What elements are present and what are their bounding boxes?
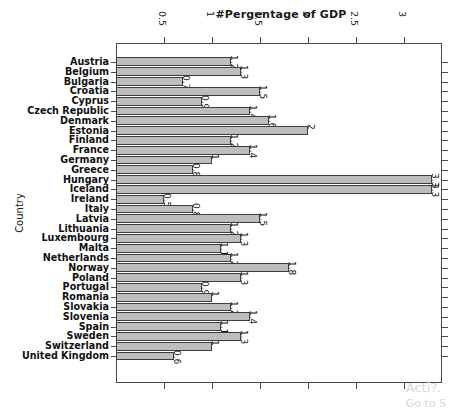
y-axis-tick-right bbox=[442, 189, 448, 190]
y-axis-tick bbox=[111, 111, 116, 112]
y-axis-tick-right bbox=[442, 336, 448, 337]
x-axis-tick-bottom bbox=[308, 383, 309, 389]
y-axis-tick-right bbox=[442, 180, 448, 181]
y-axis-tick-right bbox=[442, 297, 448, 298]
y-axis-tick-right bbox=[442, 121, 448, 122]
bar[interactable] bbox=[116, 224, 231, 233]
bar[interactable] bbox=[116, 146, 250, 155]
y-axis-tick-right bbox=[442, 238, 448, 239]
y-axis-tick bbox=[111, 287, 116, 288]
y-axis-tick-right bbox=[442, 140, 448, 141]
bar-value-label: 1.4 bbox=[248, 310, 258, 324]
bar[interactable] bbox=[116, 77, 183, 86]
bar-value-label: 1 bbox=[210, 154, 220, 160]
bar[interactable] bbox=[116, 273, 241, 282]
bar[interactable] bbox=[116, 205, 193, 214]
y-axis-tick bbox=[111, 258, 116, 259]
x-axis-tick-label: 1.5 bbox=[253, 11, 264, 26]
y-axis-tick bbox=[111, 170, 116, 171]
y-axis-tick-right bbox=[442, 209, 448, 210]
y-axis-tick bbox=[111, 72, 116, 73]
bar[interactable] bbox=[116, 293, 212, 302]
bar[interactable] bbox=[116, 244, 221, 253]
bar[interactable] bbox=[116, 283, 202, 292]
y-axis-tick bbox=[111, 150, 116, 151]
x-axis-tick bbox=[308, 37, 309, 43]
y-axis-tick bbox=[111, 121, 116, 122]
y-axis-tick bbox=[111, 131, 116, 132]
bar-value-label: 2 bbox=[306, 124, 316, 130]
activation-watermark: Acti?. Go to S bbox=[406, 380, 446, 412]
bar-value-label: 1.5 bbox=[258, 212, 268, 226]
y-axis-tick bbox=[111, 346, 116, 347]
y-axis-tick bbox=[111, 229, 116, 230]
y-axis-tick bbox=[111, 327, 116, 328]
bar[interactable] bbox=[116, 67, 241, 76]
y-axis-title: Country bbox=[14, 193, 25, 233]
bar[interactable] bbox=[116, 97, 202, 106]
bar[interactable] bbox=[116, 332, 241, 341]
bar-value-label: 1.5 bbox=[258, 85, 268, 99]
y-axis-tick bbox=[111, 62, 116, 63]
x-axis-tick-label: 0.5 bbox=[157, 11, 168, 26]
bar-value-label: 1 bbox=[210, 291, 220, 297]
y-axis-tick-right bbox=[442, 356, 448, 357]
y-axis-tick-right bbox=[442, 229, 448, 230]
x-axis-tick-bottom bbox=[404, 383, 405, 389]
y-axis-tick-right bbox=[442, 101, 448, 102]
y-axis-tick-right bbox=[442, 268, 448, 269]
x-axis-tick bbox=[164, 37, 165, 43]
y-axis-tick-right bbox=[442, 219, 448, 220]
y-axis-tick-right bbox=[442, 91, 448, 92]
bar[interactable] bbox=[116, 126, 308, 135]
x-axis-tick bbox=[260, 37, 261, 43]
bar[interactable] bbox=[116, 322, 221, 331]
y-axis-tick bbox=[111, 317, 116, 318]
y-axis-tick-right bbox=[442, 258, 448, 259]
chart-root: #Pergentage of GDP Acti?. Go to S Countr… bbox=[0, 0, 452, 420]
bar[interactable] bbox=[116, 165, 193, 174]
bar-value-label: 1.3 bbox=[239, 232, 249, 246]
bar[interactable] bbox=[116, 87, 260, 96]
bar[interactable] bbox=[116, 312, 250, 321]
y-axis-tick-right bbox=[442, 278, 448, 279]
bar-value-label: 1.3 bbox=[239, 271, 249, 285]
y-axis-tick bbox=[111, 82, 116, 83]
y-axis-tick bbox=[111, 180, 116, 181]
bar[interactable] bbox=[116, 57, 231, 66]
y-axis-tick bbox=[111, 199, 116, 200]
y-axis-tick-right bbox=[442, 170, 448, 171]
bar[interactable] bbox=[116, 195, 164, 204]
bar-value-label: 1 bbox=[210, 340, 220, 346]
bar[interactable] bbox=[116, 136, 231, 145]
y-axis-tick bbox=[111, 268, 116, 269]
y-axis-tick-right bbox=[442, 248, 448, 249]
bar[interactable] bbox=[116, 175, 432, 184]
bar[interactable] bbox=[116, 303, 231, 312]
y-axis-tick bbox=[111, 307, 116, 308]
watermark-line-2: Go to S bbox=[406, 396, 446, 412]
y-axis-tick bbox=[111, 189, 116, 190]
bar-value-label: 1.4 bbox=[248, 144, 258, 158]
y-axis-tick bbox=[111, 356, 116, 357]
y-axis-tick bbox=[111, 278, 116, 279]
y-axis-tick-right bbox=[442, 346, 448, 347]
y-axis-tick bbox=[111, 160, 116, 161]
y-axis-tick bbox=[111, 219, 116, 220]
bar[interactable] bbox=[116, 254, 231, 263]
bar[interactable] bbox=[116, 116, 269, 125]
y-axis-tick-right bbox=[442, 327, 448, 328]
x-axis-tick-bottom bbox=[356, 383, 357, 389]
bar[interactable] bbox=[116, 342, 212, 351]
y-axis-category-label: United Kingdom bbox=[22, 350, 109, 361]
x-axis-tick bbox=[404, 37, 405, 43]
x-axis-tick bbox=[356, 37, 357, 43]
bar[interactable] bbox=[116, 107, 250, 116]
x-axis-tick-bottom bbox=[260, 383, 261, 389]
bar[interactable] bbox=[116, 352, 174, 361]
x-axis-tick-bottom bbox=[164, 383, 165, 389]
y-axis-tick-right bbox=[442, 82, 448, 83]
y-axis-tick-right bbox=[442, 72, 448, 73]
bar[interactable] bbox=[116, 263, 289, 272]
x-axis-tick bbox=[212, 37, 213, 43]
